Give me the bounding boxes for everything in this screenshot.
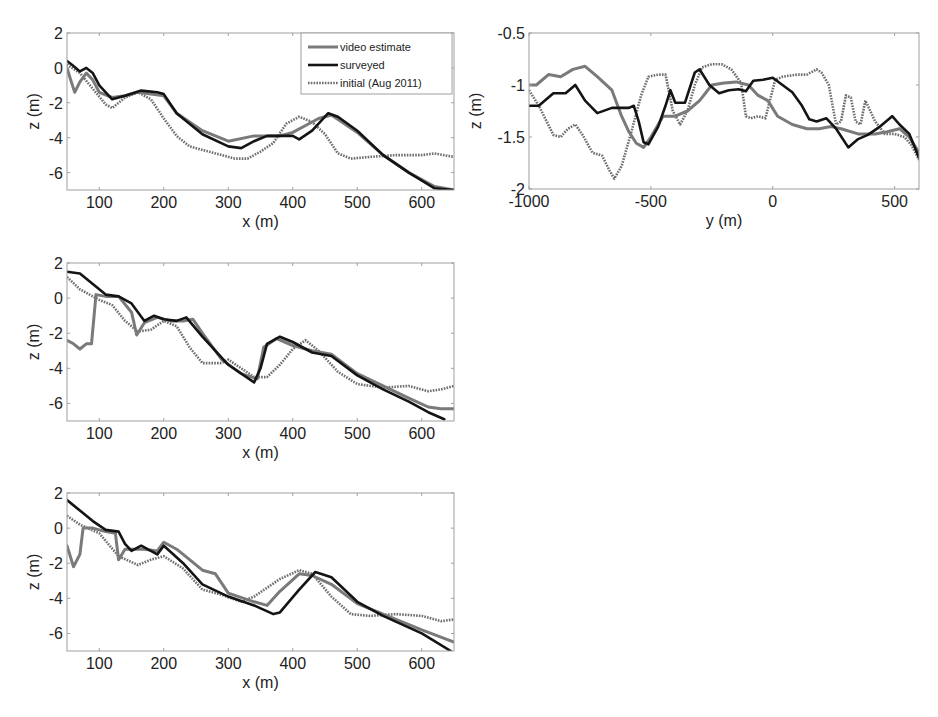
x-axis-label: y (m): [706, 212, 742, 229]
y-tick-label: -2: [49, 95, 63, 112]
panel-bottom-left: 10020030040050060020-2-4-6x (m)z (m): [25, 485, 454, 691]
figure-canvas: 10020030040050060020-2-4-6x (m)z (m) -10…: [0, 0, 938, 717]
y-tick-label: -2: [511, 181, 525, 198]
x-tick-label: 100: [86, 655, 113, 672]
x-tick-label: 200: [150, 425, 177, 442]
axes-frame: [67, 263, 454, 421]
y-axis-label: z (m): [25, 554, 42, 590]
y-tick-label: -2: [49, 555, 63, 572]
axes-frame: [67, 493, 454, 651]
legend-label-video: video estimate: [340, 41, 411, 53]
series-initial: [67, 516, 454, 621]
y-tick-label: -1: [511, 77, 525, 94]
x-axis-label: x (m): [242, 674, 278, 691]
x-tick-label: -500: [635, 193, 667, 210]
x-axis-label: x (m): [242, 444, 278, 461]
series-initial: [67, 277, 454, 391]
y-tick-label: 2: [54, 25, 63, 42]
y-tick-label: 0: [54, 60, 63, 77]
legend-label-surveyed: surveyed: [340, 59, 385, 71]
x-tick-label: 100: [86, 194, 113, 211]
y-axis-label: z (m): [467, 93, 484, 129]
x-tick-label: 500: [344, 194, 371, 211]
x-tick-label: 100: [86, 425, 113, 442]
y-axis-label: z (m): [25, 93, 42, 129]
x-tick-label: 600: [408, 425, 435, 442]
x-tick-label: 600: [408, 655, 435, 672]
panel-top-right: -1000-5000500-0.5-1-1.5-2y (m)z (m): [467, 25, 919, 229]
y-tick-label: 0: [54, 290, 63, 307]
y-tick-label: -6: [49, 395, 63, 412]
x-tick-label: 600: [408, 194, 435, 211]
axes-frame: [529, 33, 919, 189]
series-initial: [529, 64, 919, 178]
y-tick-label: -2: [49, 325, 63, 342]
series-surveyed: [67, 500, 451, 651]
x-tick-label: 400: [279, 655, 306, 672]
plot-area: [67, 272, 454, 419]
x-tick-label: 0: [768, 193, 777, 210]
x-tick-label: 400: [279, 194, 306, 211]
x-tick-label: 300: [215, 194, 242, 211]
x-tick-label: 300: [215, 425, 242, 442]
x-tick-label: 200: [150, 655, 177, 672]
y-tick-label: -6: [49, 625, 63, 642]
x-tick-label: 500: [881, 193, 908, 210]
y-axis-label: z (m): [25, 324, 42, 360]
y-tick-label: -6: [49, 165, 63, 182]
series-surveyed: [67, 272, 444, 419]
x-axis-label: x (m): [242, 213, 278, 230]
series-video: [67, 295, 454, 409]
y-tick-label: -0.5: [497, 25, 525, 42]
legend-label-initial: initial (Aug 2011): [340, 77, 422, 89]
y-tick-label: 2: [54, 485, 63, 502]
x-tick-label: 500: [344, 425, 371, 442]
plot-area: [67, 500, 454, 651]
y-tick-label: 0: [54, 520, 63, 537]
y-tick-label: -4: [49, 590, 63, 607]
plot-area: [529, 64, 919, 178]
y-tick-label: -4: [49, 130, 63, 147]
x-tick-label: 500: [344, 655, 371, 672]
y-tick-label: -1.5: [497, 129, 525, 146]
panel-middle-left: 10020030040050060020-2-4-6x (m)z (m): [25, 255, 454, 461]
y-tick-label: -4: [49, 360, 63, 377]
x-tick-label: 300: [215, 655, 242, 672]
y-tick-label: 2: [54, 255, 63, 272]
x-tick-label: 200: [150, 194, 177, 211]
series-video: [529, 66, 919, 152]
x-tick-label: 400: [279, 425, 306, 442]
legend: video estimate surveyed initial (Aug 201…: [301, 33, 452, 94]
